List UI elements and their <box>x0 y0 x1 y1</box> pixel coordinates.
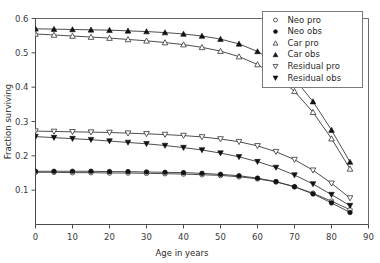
y-tick-label: 0.2 <box>15 151 29 161</box>
marker-filled-circle <box>255 176 260 181</box>
marker-filled-circle <box>292 184 297 189</box>
marker-open-triangle-down <box>292 157 298 162</box>
marker-filled-circle <box>181 170 186 175</box>
marker-open-triangle-up <box>255 62 261 67</box>
x-tick-label: 50 <box>215 232 226 242</box>
y-tick-label: 0.6 <box>15 14 29 24</box>
marker-filled-circle <box>237 173 242 178</box>
series-line <box>36 131 351 198</box>
marker-filled-circle <box>274 179 279 184</box>
x-tick-label: 90 <box>363 232 374 242</box>
marker-filled-triangle-up <box>255 49 261 54</box>
x-tick-label: 70 <box>289 232 300 242</box>
legend-item-label: Car obs <box>288 49 321 59</box>
legend-item-label: Car pro <box>288 38 319 48</box>
x-tick-label: 60 <box>252 232 263 242</box>
marker-filled-triangle-up <box>347 159 353 164</box>
x-tick-label: 30 <box>141 232 152 242</box>
chart-legend: Neo proNeo obsCar proCar obsResidual pro… <box>263 12 363 88</box>
marker-filled-circle <box>107 169 112 174</box>
marker-filled-circle <box>144 170 149 175</box>
marker-filled-circle <box>163 170 168 175</box>
x-tick-label: 40 <box>178 232 189 242</box>
legend-item-label: Residual obs <box>288 73 342 83</box>
series-line <box>36 172 351 209</box>
y-axis-ticks: 0.10.20.30.40.50.6 <box>15 14 36 196</box>
y-tick-label: 0.3 <box>15 117 29 127</box>
marker-filled-triangle-down <box>292 173 298 178</box>
legend-item-label: Neo obs <box>288 26 323 36</box>
series-line <box>36 171 351 212</box>
marker-open-triangle-up <box>347 166 353 171</box>
y-axis-label: Fraction surviving <box>3 84 13 160</box>
survival-curve-chart: 01020304050607080900.10.20.30.40.50.6Age… <box>0 0 380 263</box>
marker-open-triangle-down <box>310 168 316 173</box>
marker-filled-triangle-down <box>310 182 316 187</box>
marker-filled-triangle-down <box>273 165 279 170</box>
marker-filled-circle <box>329 201 334 206</box>
marker-filled-circle <box>89 169 94 174</box>
marker-filled-triangle-down <box>347 203 353 208</box>
chart-figure: 01020304050607080900.10.20.30.40.50.6Age… <box>0 0 380 263</box>
marker-filled-circle <box>311 192 316 197</box>
marker-open-triangle-down <box>347 196 353 201</box>
x-tick-label: 80 <box>326 232 337 242</box>
marker-filled-circle <box>33 169 38 174</box>
marker-filled-circle <box>126 169 131 174</box>
marker-filled-circle <box>52 169 57 174</box>
y-tick-label: 0.5 <box>15 48 29 58</box>
marker-filled-circle <box>70 169 75 174</box>
marker-open-triangle-down <box>273 149 279 154</box>
marker-filled-triangle-down <box>329 192 335 197</box>
y-tick-label: 0.4 <box>15 82 29 92</box>
y-tick-label: 0.1 <box>15 185 29 195</box>
x-tick-label: 20 <box>104 232 115 242</box>
legend-item-label: Residual pro <box>288 61 341 71</box>
marker-filled-circle <box>218 172 223 177</box>
x-axis-ticks: 0102030405060708090 <box>33 225 374 242</box>
legend-item-label: Neo pro <box>288 15 321 25</box>
series-neo-obs <box>33 169 352 215</box>
marker-filled-triangle-up <box>329 127 335 132</box>
x-tick-label: 10 <box>67 232 78 242</box>
marker-filled-circle <box>274 30 278 34</box>
x-axis-label: Age in years <box>156 248 210 258</box>
marker-filled-circle <box>348 210 353 215</box>
x-tick-label: 0 <box>33 232 38 242</box>
marker-filled-circle <box>200 171 205 176</box>
marker-open-circle <box>274 18 278 22</box>
